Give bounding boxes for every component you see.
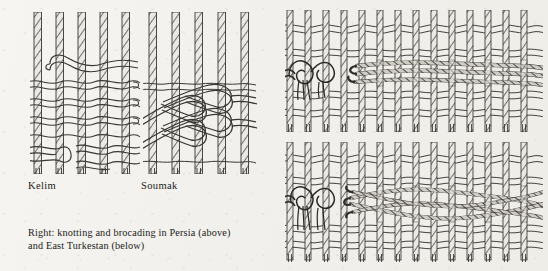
- figure-caption: Right: knotting and brocading in Persia …: [28, 226, 288, 252]
- caption-line-1: Right: knotting and brocading in Persia …: [28, 226, 288, 239]
- figure-east-turkestan-knotting: [285, 142, 543, 262]
- warp-threads: [149, 12, 249, 174]
- caption-line-2: and East Turkestan (below): [28, 239, 288, 252]
- weave-knotting-east-turkestan-diagram: [285, 142, 543, 262]
- illustration-page: Kelim: [0, 0, 548, 271]
- weave-knotting-persia-diagram: [285, 10, 543, 132]
- weave-kelim-diagram: [30, 12, 142, 174]
- figure-label-kelim: Kelim: [28, 180, 56, 191]
- figure-kelim: [30, 12, 142, 174]
- brocading-yarns: [344, 186, 543, 219]
- figure-label-soumak: Soumak: [141, 180, 178, 191]
- figure-persia-knotting: [285, 10, 543, 132]
- figure-soumak: [143, 12, 257, 174]
- weave-soumak-diagram: [143, 12, 257, 174]
- warp-threads: [34, 12, 130, 174]
